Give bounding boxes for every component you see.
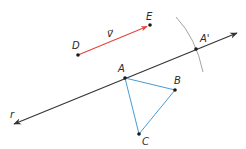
triangle-abc [125, 78, 175, 134]
compass-arc [176, 17, 203, 72]
point-c [137, 132, 141, 136]
label-c: C [142, 136, 149, 147]
label-a-prime: A' [199, 33, 210, 44]
label-r: r [10, 109, 15, 120]
label-b: B [174, 75, 181, 86]
point-e [148, 23, 152, 27]
point-a [123, 76, 127, 80]
point-b [173, 88, 177, 92]
label-e: E [146, 11, 153, 22]
point-d [76, 53, 80, 57]
label-a: A [117, 63, 125, 74]
geometry-diagram: D E v⃗ A A' B C r [0, 0, 246, 149]
label-v: v⃗ [107, 28, 114, 39]
label-d: D [72, 40, 80, 51]
point-a-prime [194, 47, 198, 51]
